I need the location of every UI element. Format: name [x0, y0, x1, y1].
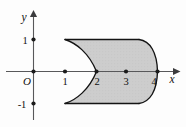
x-tick-label-1: 1 — [62, 76, 67, 87]
x-tick-label-4: 4 — [151, 76, 157, 87]
y-tick-label-neg1: -1 — [18, 99, 27, 110]
y-axis-label: y — [20, 11, 27, 24]
origin-label: O — [23, 75, 31, 87]
y-axis-arrow-icon — [30, 10, 37, 17]
x-axis-label: x — [168, 73, 175, 85]
x-tick-dot-1 — [63, 69, 67, 73]
y-tick-label-1: 1 — [22, 35, 27, 46]
x-tick-label-2: 2 — [94, 76, 99, 87]
y-tick-dot-neg1 — [31, 101, 35, 105]
origin-dot — [31, 69, 35, 73]
x-tick-dot-2 — [94, 69, 98, 73]
x-tick-dot-4 — [155, 69, 159, 73]
y-tick-dot-1 — [31, 37, 35, 41]
coordinate-plane-figure: y x O 1 2 3 4 1 -1 — [0, 0, 186, 127]
x-tick-label-3: 3 — [123, 76, 128, 87]
x-tick-dot-3 — [124, 69, 128, 73]
figure-container: y x O 1 2 3 4 1 -1 — [0, 0, 186, 127]
